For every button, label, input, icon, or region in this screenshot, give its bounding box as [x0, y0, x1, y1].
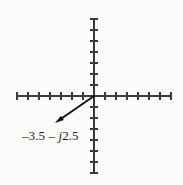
- vector-label-real: –3.5 –: [22, 128, 58, 143]
- vector-value-label: –3.5 – j2.5: [22, 128, 79, 144]
- phasor-vector: [55, 96, 94, 123]
- vector-label-imag: 2.5: [62, 128, 79, 143]
- complex-plane-figure: –3.5 – j2.5: [0, 0, 183, 185]
- complex-plane-plot: [0, 0, 183, 185]
- vector-line: [61, 96, 94, 119]
